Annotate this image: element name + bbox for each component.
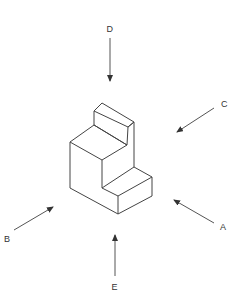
arrow-a-label: A [220, 222, 226, 232]
arrow-e-label: E [112, 282, 118, 292]
arrow-d-label: D [107, 24, 114, 34]
arrow-b-label: B [4, 234, 10, 244]
arrow-b: B [4, 207, 53, 244]
isometric-block [70, 103, 152, 214]
left-face [70, 142, 118, 214]
step-front-edge [118, 177, 152, 214]
arrow-c-label: C [221, 99, 228, 109]
arrow-e: E [112, 235, 118, 292]
left-block-top-face [70, 125, 127, 160]
arrow-d: D [107, 24, 114, 81]
arrow-c: C [177, 99, 228, 132]
arrow-a: A [174, 200, 226, 232]
diagram-canvas: D C A B E [0, 0, 241, 307]
step-top-face [102, 167, 152, 196]
back-wall-top-face [94, 103, 134, 127]
